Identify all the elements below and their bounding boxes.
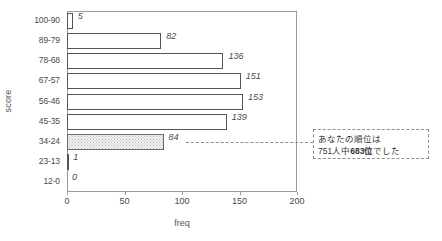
bar (67, 13, 73, 29)
bar (67, 33, 161, 49)
bar-value-label: 82 (166, 31, 176, 41)
y-tick-label: 12-0 (0, 176, 60, 186)
x-tick-mark (125, 192, 126, 195)
bar (67, 114, 227, 130)
bar (67, 154, 69, 170)
bar-value-label: 1 (73, 152, 78, 162)
bar-value-label: 153 (248, 92, 263, 102)
bar-value-label: 84 (169, 132, 179, 142)
annotation-leader-line (186, 142, 313, 143)
x-tick-mark (182, 192, 183, 195)
bar-value-label: 151 (246, 71, 261, 81)
y-tick-label: 23-13 (0, 156, 60, 166)
bar-highlighted (67, 134, 164, 150)
x-tick-label: 0 (47, 196, 87, 206)
rank-annotation: あなたの順位は 751人中683位でした (313, 129, 429, 159)
y-tick-label: 56-46 (0, 96, 60, 106)
x-tick-mark (240, 192, 241, 195)
y-tick-label: 67-57 (0, 75, 60, 85)
bar (67, 73, 241, 89)
bar-chart: score freq 100-9089-7978-6867-5756-4645-… (0, 0, 442, 241)
bar-value-label: 5 (78, 11, 83, 21)
bar-value-label: 0 (72, 172, 77, 182)
annotation-line-1: あなたの順位は (318, 133, 424, 145)
y-tick-label: 89-79 (0, 35, 60, 45)
x-tick-label: 150 (220, 196, 260, 206)
x-tick-mark (297, 192, 298, 195)
bar (67, 53, 223, 69)
y-tick-label: 78-68 (0, 55, 60, 65)
annotation-rank: 683位 (350, 146, 373, 156)
x-tick-label: 100 (162, 196, 202, 206)
x-tick-mark (67, 192, 68, 195)
annotation-suffix: でした (373, 146, 400, 156)
bar-value-label: 139 (232, 112, 247, 122)
annotation-line-2: 751人中683位でした (318, 145, 424, 157)
bar-value-label: 136 (228, 51, 243, 61)
x-tick-label: 50 (105, 196, 145, 206)
x-tick-label: 200 (277, 196, 317, 206)
y-tick-label: 34-24 (0, 136, 60, 146)
y-tick-label: 45-35 (0, 116, 60, 126)
bar (67, 94, 243, 110)
x-axis-label: freq (67, 218, 297, 228)
y-tick-label: 100-90 (0, 15, 60, 25)
annotation-total: 751人中 (318, 146, 350, 156)
